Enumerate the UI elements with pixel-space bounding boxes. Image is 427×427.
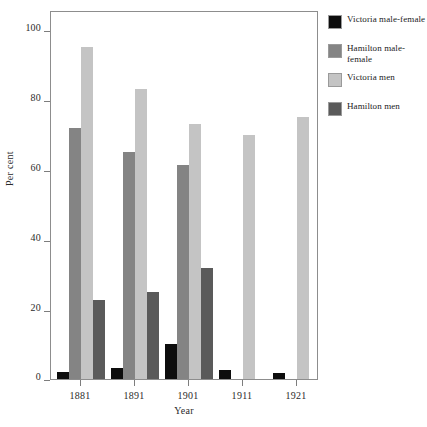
- plot-area-frame: [50, 11, 318, 380]
- bar-1891-series-2: [123, 152, 135, 379]
- bar-1891-series-3: [135, 89, 147, 379]
- x-tick-mark-1911: [242, 380, 243, 386]
- x-tick-mark-1921: [296, 380, 297, 386]
- x-tick-mark-1881: [80, 380, 81, 386]
- x-tick-label-1901: 1901: [158, 390, 218, 401]
- y-tick-label-80: 80: [31, 93, 41, 103]
- legend-swatch-icon: [328, 44, 342, 58]
- bar-group-1901: [165, 12, 213, 379]
- chart-legend: Victoria male-female Hamilton male-femal…: [328, 14, 427, 130]
- y-tick-label-40: 40: [31, 233, 41, 243]
- y-tick-mark: [44, 380, 50, 381]
- bar-1881-series-2: [69, 128, 81, 379]
- bar-1891-series-1: [111, 368, 123, 379]
- y-tick-label-100: 100: [25, 23, 41, 33]
- y-axis-title: Per cent: [4, 151, 15, 186]
- bar-1881-series-4: [93, 300, 105, 379]
- x-axis-title: Year: [0, 405, 368, 416]
- bar-group-1891: [111, 12, 159, 379]
- bar-1901-series-2: [177, 165, 189, 379]
- y-tick-80: 80: [0, 101, 50, 102]
- bar-1901-series-4: [201, 268, 213, 379]
- legend-item-victoria-male-female: Victoria male-female: [328, 14, 427, 36]
- bar-1881-series-3: [81, 47, 93, 379]
- legend-label: Victoria men: [347, 72, 395, 83]
- y-tick-40: 40: [0, 241, 50, 242]
- bar-chart-figure: 100 80 60 40 20 0 Per cent 188: [0, 0, 427, 427]
- legend-item-hamilton-men: Hamilton men: [328, 101, 427, 123]
- legend-swatch-icon: [328, 102, 342, 116]
- legend-item-victoria-men: Victoria men: [328, 72, 427, 94]
- bar-1921-series-3: [297, 117, 309, 379]
- y-tick-100: 100: [0, 31, 50, 32]
- y-tick-20: 20: [0, 311, 50, 312]
- y-tick-0: 0: [0, 380, 50, 381]
- legend-swatch-icon: [328, 15, 342, 29]
- bar-1881-series-1: [57, 372, 69, 379]
- bar-1901-series-1: [165, 344, 177, 379]
- bar-group-1921: [273, 12, 321, 379]
- y-tick-label-20: 20: [31, 303, 41, 313]
- x-tick-label-1891: 1891: [104, 390, 164, 401]
- x-tick-label-1911: 1911: [212, 390, 272, 401]
- y-tick-label-0: 0: [36, 372, 41, 382]
- bar-group-1881: [57, 12, 105, 379]
- legend-label: Hamilton male-female: [347, 43, 427, 65]
- x-tick-mark-1891: [134, 380, 135, 386]
- x-tick-label-1881: 1881: [50, 390, 110, 401]
- bar-1921-series-1: [273, 373, 285, 379]
- y-axis: 100 80 60 40 20 0: [0, 0, 50, 427]
- legend-item-hamilton-male-female: Hamilton male-female: [328, 43, 427, 65]
- bar-1891-series-4: [147, 292, 159, 379]
- x-tick-mark-1901: [188, 380, 189, 386]
- bar-group-1911: [219, 12, 267, 379]
- plot-area: [51, 12, 317, 379]
- bar-1901-series-3: [189, 124, 201, 379]
- bar-1911-series-1: [219, 370, 231, 379]
- legend-label: Victoria male-female: [347, 14, 425, 25]
- bar-1911-series-3: [243, 135, 255, 379]
- legend-label: Hamilton men: [347, 101, 400, 112]
- y-tick-label-60: 60: [31, 163, 41, 173]
- x-tick-label-1921: 1921: [266, 390, 326, 401]
- legend-swatch-icon: [328, 73, 342, 87]
